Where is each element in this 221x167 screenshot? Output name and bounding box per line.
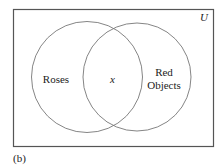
set-label-roses: Roses: [43, 73, 69, 85]
set-label-red-objects-line1: Red: [155, 66, 173, 78]
set-circle-red-objects: [83, 23, 191, 131]
intersection-label: x: [109, 73, 115, 85]
universe-label: U: [200, 11, 209, 23]
set-label-red-objects-line2: Objects: [147, 79, 181, 91]
venn-diagram: U Roses x Red Objects (b): [0, 0, 221, 167]
figure-caption: (b): [13, 152, 26, 165]
